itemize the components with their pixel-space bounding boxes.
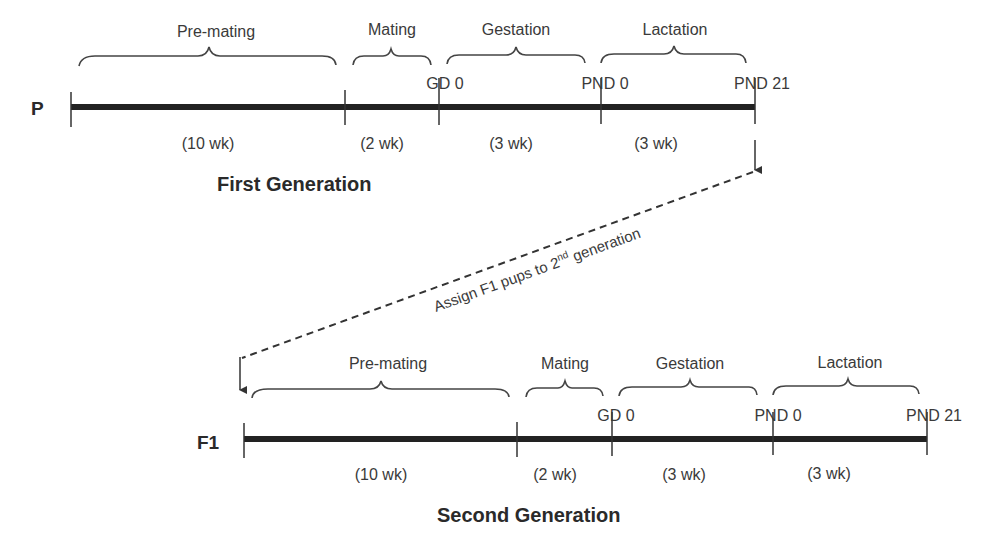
brace-gestation [447, 47, 585, 64]
marker-pnd21: PND 21 [906, 407, 962, 424]
duration-mating: (2 wk) [360, 135, 404, 152]
breeding-timeline-diagram: Pre-mating Mating Gestation Lactation P … [0, 0, 996, 549]
duration-gestation: (3 wk) [662, 466, 706, 483]
brace-mating [526, 381, 603, 397]
transfer-label: Assign F1 pups to 2nd generation [431, 223, 643, 315]
marker-pnd21: PND 21 [734, 75, 790, 92]
row-label-p: P [31, 98, 44, 119]
duration-lactation: (3 wk) [634, 135, 678, 152]
duration-gestation: (3 wk) [489, 135, 533, 152]
marker-gd0: GD 0 [597, 407, 634, 424]
phase-label-gestation: Gestation [482, 21, 550, 38]
phase-label-lactation: Lactation [643, 21, 708, 38]
duration-mating: (2 wk) [533, 466, 577, 483]
marker-gd0: GD 0 [426, 75, 463, 92]
brace-lactation [773, 379, 919, 395]
duration-premating: (10 wk) [182, 135, 234, 152]
brace-mating [353, 49, 431, 65]
brace-premating [79, 47, 336, 66]
phase-label-lactation: Lactation [818, 354, 883, 371]
marker-pnd0: PND 0 [581, 75, 628, 92]
brace-premating [252, 381, 509, 398]
generation-title-second: Second Generation [437, 504, 620, 526]
phase-label-premating: Pre-mating [177, 23, 255, 40]
phase-label-gestation: Gestation [656, 355, 724, 372]
duration-lactation: (3 wk) [807, 465, 851, 482]
generation-title-first: First Generation [217, 173, 371, 195]
phase-label-mating: Mating [541, 355, 589, 372]
generation-f1: Pre-mating Mating Gestation Lactation F1… [197, 354, 962, 526]
phase-label-premating: Pre-mating [349, 355, 427, 372]
brace-lactation [601, 46, 746, 63]
dashed-connector [242, 172, 753, 358]
marker-pnd0: PND 0 [754, 407, 801, 424]
phase-label-mating: Mating [368, 21, 416, 38]
generation-p: Pre-mating Mating Gestation Lactation P … [31, 21, 790, 195]
row-label-f1: F1 [197, 432, 220, 453]
duration-premating: (10 wk) [355, 466, 407, 483]
brace-gestation [619, 380, 757, 396]
